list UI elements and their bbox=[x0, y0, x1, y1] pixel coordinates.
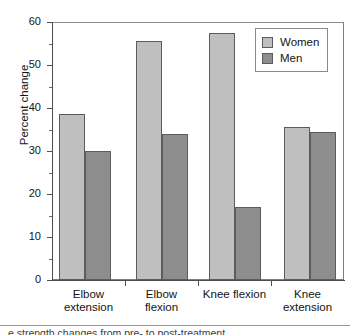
x-category-label: Knee flexion bbox=[187, 288, 282, 301]
legend-swatch-women bbox=[262, 37, 273, 48]
bar-men-1 bbox=[85, 151, 111, 280]
bar-men-3 bbox=[235, 207, 261, 280]
y-tick-label: 20 bbox=[1, 188, 41, 199]
y-tick-label: 40 bbox=[1, 102, 41, 113]
bar-women-4 bbox=[284, 127, 310, 280]
x-category-label-line: Knee flexion bbox=[187, 288, 282, 301]
x-category-label: Elbowextension bbox=[52, 288, 125, 314]
legend-swatch-men bbox=[262, 53, 273, 64]
y-tick-major bbox=[47, 280, 52, 281]
bar-men-4 bbox=[310, 132, 336, 280]
y-tick-label: 50 bbox=[1, 59, 41, 70]
x-category-label-line: flexion bbox=[125, 301, 198, 314]
caption-divider bbox=[0, 325, 350, 326]
x-category-label-line: extension bbox=[52, 301, 125, 314]
bar-chart-figure: Percent change 0102030405060 Elbowextens… bbox=[0, 0, 350, 335]
legend-item-women: Women bbox=[262, 34, 319, 50]
bar-women-1 bbox=[59, 114, 85, 280]
x-tick bbox=[125, 281, 126, 286]
x-tick bbox=[271, 281, 272, 286]
x-category-label-line: extension bbox=[271, 301, 344, 314]
legend-item-men: Men bbox=[262, 50, 319, 66]
bar-men-2 bbox=[162, 134, 188, 280]
x-category-label: Kneeextension bbox=[271, 288, 344, 314]
y-tick-label: 0 bbox=[1, 274, 41, 285]
x-category-label-line: Knee bbox=[271, 288, 344, 301]
legend-label: Men bbox=[280, 52, 302, 64]
legend-label: Women bbox=[280, 36, 319, 48]
y-tick-label: 10 bbox=[1, 231, 41, 242]
legend: WomenMen bbox=[255, 28, 328, 72]
x-tick bbox=[198, 281, 199, 286]
y-tick-label: 60 bbox=[1, 16, 41, 27]
bar-women-2 bbox=[136, 41, 162, 280]
bar-women-3 bbox=[209, 33, 235, 280]
y-tick-label: 30 bbox=[1, 145, 41, 156]
x-category-label-line: Elbow bbox=[52, 288, 125, 301]
figure-caption-clipped: e strength changes from pre- to post-tre… bbox=[8, 328, 350, 335]
